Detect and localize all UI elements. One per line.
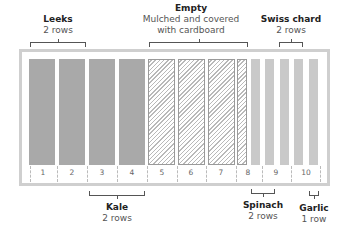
bed-strip-6-empty xyxy=(178,59,205,165)
empty-title: Empty xyxy=(143,3,240,14)
empty-label: Empty Mulched and covered with cardboard xyxy=(143,3,240,36)
section-divider xyxy=(177,166,178,182)
spinach-bracket xyxy=(251,189,275,194)
garlic-title: Garlic xyxy=(299,203,328,214)
kale-label: Kale 2 rows xyxy=(102,202,132,224)
section-number-6: 6 xyxy=(189,168,194,177)
section-divider xyxy=(206,166,207,182)
kale-rows: 2 rows xyxy=(102,213,132,224)
section-divider xyxy=(236,166,237,182)
leeks-bracket xyxy=(30,42,86,47)
kale-bracket xyxy=(89,191,145,196)
section-number-7: 7 xyxy=(219,168,224,177)
empty-desc-line2: with cardboard xyxy=(143,25,240,36)
garlic-rows: 1 row xyxy=(299,214,328,225)
section-divider xyxy=(30,166,31,182)
kale-title: Kale xyxy=(102,202,132,213)
section-number-10: 10 xyxy=(301,168,311,177)
bed-strip-5-empty xyxy=(148,59,175,165)
swiss-chard-row-2 xyxy=(294,59,303,165)
section-number-1: 1 xyxy=(41,168,46,177)
garlic-label: Garlic 1 row xyxy=(299,203,328,225)
section-divider xyxy=(262,166,263,182)
swiss-chard-bracket xyxy=(279,42,303,47)
swiss-chard-label: Swiss chard 2 rows xyxy=(261,14,321,36)
section-divider xyxy=(147,166,148,182)
section-divider xyxy=(291,166,292,182)
bed-strip-4 xyxy=(119,59,145,165)
section-divider xyxy=(117,166,118,182)
bed-strip-3 xyxy=(89,59,115,165)
bed-strip-1 xyxy=(29,59,55,165)
section-number-4: 4 xyxy=(130,168,135,177)
bed-strip-7-empty xyxy=(208,59,235,165)
leeks-title: Leeks xyxy=(43,14,73,25)
section-number-9: 9 xyxy=(274,168,279,177)
section-number-8: 8 xyxy=(246,168,251,177)
leeks-rows: 2 rows xyxy=(43,25,73,36)
section-number-5: 5 xyxy=(160,168,165,177)
swiss-chard-rows: 2 rows xyxy=(261,25,321,36)
section-divider xyxy=(320,166,321,182)
section-divider xyxy=(87,166,88,182)
section-number-3: 3 xyxy=(100,168,105,177)
swiss-chard-title: Swiss chard xyxy=(261,14,321,25)
spinach-rows: 2 rows xyxy=(243,211,283,222)
empty-desc-line1: Mulched and covered xyxy=(143,14,240,25)
spinach-title: Spinach xyxy=(243,200,283,211)
leeks-label: Leeks 2 rows xyxy=(43,14,73,36)
section-divider xyxy=(57,166,58,182)
bed-strip-2 xyxy=(59,59,85,165)
swiss-chard-row-1 xyxy=(280,59,289,165)
spinach-row-2 xyxy=(265,59,274,165)
bed-strip-8-empty xyxy=(237,59,247,165)
garlic-bracket xyxy=(309,191,319,196)
section-number-2: 2 xyxy=(70,168,75,177)
spinach-label: Spinach 2 rows xyxy=(243,200,283,222)
garlic-row xyxy=(309,59,318,165)
empty-bracket xyxy=(149,42,248,47)
spinach-row-1 xyxy=(251,59,260,165)
